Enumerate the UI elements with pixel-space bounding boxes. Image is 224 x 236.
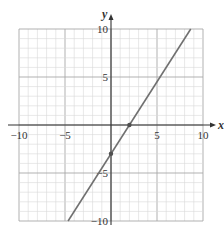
y-tick-label: 5 xyxy=(103,71,109,83)
x-axis-arrow-icon xyxy=(210,123,216,128)
y-tick-label: −10 xyxy=(91,215,109,227)
y-tick-label: 10 xyxy=(97,23,109,35)
coordinate-plane: −10−5510105−5−10 x y xyxy=(0,0,224,236)
intercept-point xyxy=(109,152,113,156)
y-axis-arrow-icon xyxy=(109,14,114,20)
x-tick-label: −5 xyxy=(59,129,71,141)
intercept-point xyxy=(127,123,131,127)
y-axis-label: y xyxy=(100,7,108,21)
x-axis-label: x xyxy=(217,118,224,132)
x-tick-label: 5 xyxy=(154,129,160,141)
x-tick-label: −10 xyxy=(10,129,28,141)
x-tick-label: 10 xyxy=(198,129,210,141)
